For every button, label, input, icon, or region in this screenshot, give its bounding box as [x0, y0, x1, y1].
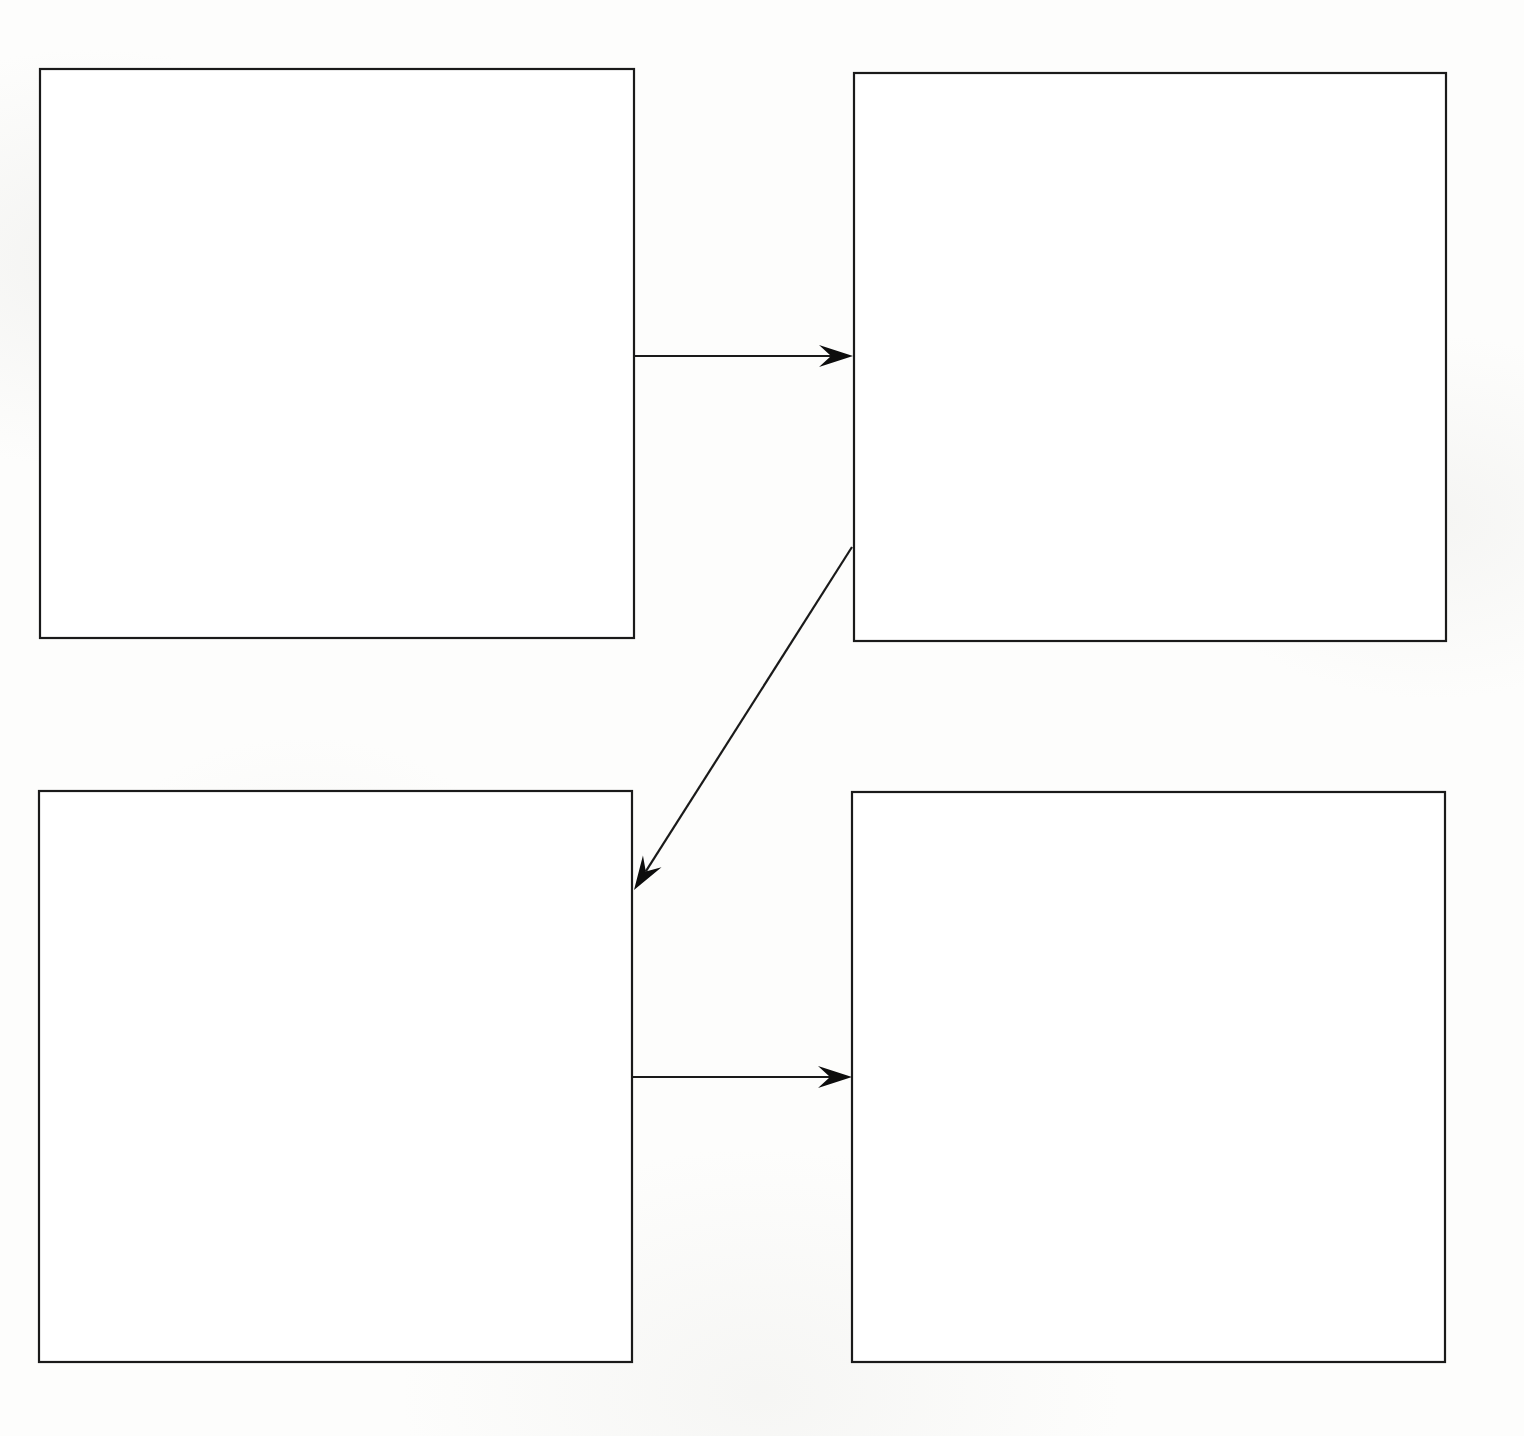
edge-bottom-left-to-bottom-right[interactable]	[633, 1066, 852, 1088]
box-top-left[interactable]	[40, 69, 634, 638]
box-top-right[interactable]	[854, 73, 1446, 641]
edge-shaft	[646, 547, 852, 871]
arrowhead-icon	[634, 855, 662, 890]
diagram-canvas	[0, 0, 1524, 1436]
edge-top-right-to-bottom-left[interactable]	[634, 547, 852, 890]
edge-top-left-to-top-right[interactable]	[634, 345, 853, 367]
edge-group	[633, 345, 853, 1088]
node-group	[39, 69, 1446, 1362]
flow-diagram	[0, 0, 1524, 1436]
box-bottom-left[interactable]	[39, 791, 632, 1362]
box-bottom-right[interactable]	[852, 792, 1445, 1362]
